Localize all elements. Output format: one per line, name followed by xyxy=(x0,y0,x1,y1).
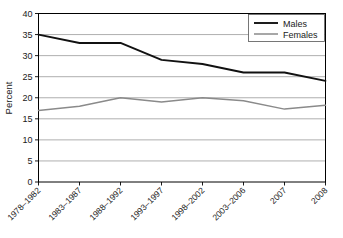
chart-canvas: 0510152025303540 1978–19821983–19871988–… xyxy=(0,0,343,238)
y-tick-label: 10 xyxy=(22,135,32,145)
legend-label-males: Males xyxy=(283,19,308,29)
y-tick-label: 25 xyxy=(22,72,32,82)
y-axis-title: Percent xyxy=(3,81,14,114)
line-chart: 0510152025303540 1978–19821983–19871988–… xyxy=(0,0,343,238)
legend-label-females: Females xyxy=(283,30,318,40)
y-tick-label: 40 xyxy=(22,9,32,19)
y-tick-label: 5 xyxy=(27,156,32,166)
y-axis-title-group: Percent xyxy=(3,81,14,114)
y-tick-label: 35 xyxy=(22,30,32,40)
chart-legend: Males Females xyxy=(249,15,325,42)
y-tick-label: 20 xyxy=(22,93,32,103)
y-tick-label: 15 xyxy=(22,114,32,124)
y-tick-label: 30 xyxy=(22,51,32,61)
y-tick-label: 0 xyxy=(27,177,32,187)
